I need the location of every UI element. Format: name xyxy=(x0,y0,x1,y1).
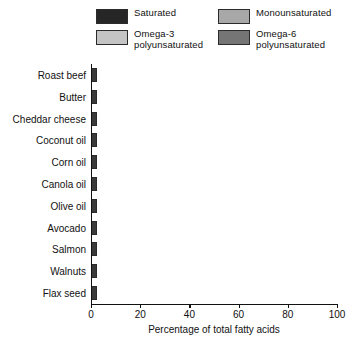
stacked-bar xyxy=(92,112,97,126)
bar-row: Flax seed xyxy=(92,286,338,300)
stacked-bar xyxy=(92,133,97,147)
category-label: Canola oil xyxy=(42,179,92,190)
x-axis-tick-label: 20 xyxy=(135,309,146,320)
legend-label-monounsaturated: Monounsaturated xyxy=(256,8,331,19)
bar-segment xyxy=(95,265,96,277)
legend-column-right: Monounsaturated Omega-6 polyunsaturated xyxy=(218,8,331,55)
legend-entry-saturated: Saturated xyxy=(96,8,203,24)
category-label: Coconut oil xyxy=(36,135,92,146)
x-axis-tick-label: 60 xyxy=(233,309,244,320)
x-axis-tick xyxy=(337,304,338,308)
bar-segment xyxy=(95,91,96,103)
x-axis-tick xyxy=(239,304,240,308)
x-axis-title: Percentage of total fatty acids xyxy=(91,324,337,335)
x-axis-tick xyxy=(288,304,289,308)
bar-segment xyxy=(95,178,96,190)
legend-column-left: Saturated Omega-3 polyunsaturated xyxy=(96,8,203,55)
bar-segment xyxy=(95,69,96,81)
bar-row: Walnuts xyxy=(92,264,338,278)
x-axis-tick xyxy=(189,304,190,308)
x-axis-tick-label: 40 xyxy=(184,309,195,320)
stacked-bar xyxy=(92,221,97,235)
stacked-bar xyxy=(92,286,97,300)
legend-swatch-omega-3 xyxy=(96,30,128,45)
category-label: Corn oil xyxy=(52,157,92,168)
stacked-bar xyxy=(92,177,97,191)
legend-entry-monounsaturated: Monounsaturated xyxy=(218,8,331,24)
x-axis-tick-label: 80 xyxy=(282,309,293,320)
bar-segment xyxy=(95,243,96,255)
bar-row: Cheddar cheese xyxy=(92,112,338,126)
legend-entry-omega-6: Omega-6 polyunsaturated xyxy=(218,29,331,50)
legend-label-omega-6: Omega-6 polyunsaturated xyxy=(256,29,325,50)
x-axis-tick xyxy=(91,304,92,308)
legend-label-saturated: Saturated xyxy=(134,8,176,19)
category-label: Cheddar cheese xyxy=(13,113,92,124)
stacked-bar xyxy=(92,199,97,213)
category-label: Butter xyxy=(59,91,92,102)
plot-area: Roast beefButterCheddar cheeseCoconut oi… xyxy=(91,64,338,304)
chart-legend: Saturated Omega-3 polyunsaturated Monoun… xyxy=(96,8,344,58)
bar-row: Olive oil xyxy=(92,199,338,213)
stacked-bar xyxy=(92,90,97,104)
category-label: Salmon xyxy=(52,244,92,255)
bar-row: Coconut oil xyxy=(92,133,338,147)
bar-segment xyxy=(95,156,96,168)
legend-swatch-omega-6 xyxy=(218,30,250,45)
legend-swatch-saturated xyxy=(96,9,128,24)
bar-row: Roast beef xyxy=(92,68,338,82)
bar-segment xyxy=(95,134,96,146)
legend-entry-omega-3: Omega-3 polyunsaturated xyxy=(96,29,203,50)
category-label: Flax seed xyxy=(43,288,92,299)
x-axis: 020406080100 xyxy=(91,304,337,305)
x-axis-tick xyxy=(140,304,141,308)
stacked-bar xyxy=(92,68,97,82)
x-axis-tick-label: 0 xyxy=(88,309,94,320)
legend-swatch-monounsaturated xyxy=(218,9,250,24)
bar-segment xyxy=(95,113,96,125)
legend-label-omega-3: Omega-3 polyunsaturated xyxy=(134,29,203,50)
bar-row: Butter xyxy=(92,90,338,104)
stacked-bar xyxy=(92,264,97,278)
bar-segment xyxy=(95,200,96,212)
bar-row: Avocado xyxy=(92,221,338,235)
bar-row: Corn oil xyxy=(92,155,338,169)
bar-segment xyxy=(95,222,96,234)
fatty-acid-composition-chart: Saturated Omega-3 polyunsaturated Monoun… xyxy=(0,0,350,345)
stacked-bar xyxy=(92,242,97,256)
bar-row: Salmon xyxy=(92,242,338,256)
category-label: Olive oil xyxy=(50,200,92,211)
category-label: Avocado xyxy=(47,222,92,233)
category-label: Walnuts xyxy=(50,266,92,277)
bar-segment xyxy=(95,287,96,299)
stacked-bar xyxy=(92,155,97,169)
x-axis-tick-label: 100 xyxy=(329,309,346,320)
bar-row: Canola oil xyxy=(92,177,338,191)
category-label: Roast beef xyxy=(38,69,92,80)
